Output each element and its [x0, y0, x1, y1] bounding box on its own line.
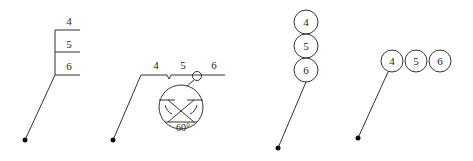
callout-variant-b: 60° 4 5 6 [111, 59, 226, 143]
label-6: 6 [437, 55, 443, 67]
leader-dot [356, 136, 361, 141]
callout-variant-a: 4 5 6 [23, 15, 81, 143]
angle-label: 60° [176, 122, 190, 133]
callout-diagram: 4 5 6 60° 4 5 6 4 5 6 [0, 0, 473, 161]
label-5: 5 [66, 38, 72, 50]
label-5: 5 [303, 40, 309, 52]
small-circle [193, 72, 202, 81]
leader-dot [276, 146, 281, 151]
label-4: 4 [389, 55, 395, 67]
callout-variant-c: 4 5 6 [276, 10, 319, 151]
label-5: 5 [180, 59, 186, 71]
label-6: 6 [303, 64, 309, 76]
label-5: 5 [413, 55, 419, 67]
leader-dot [111, 138, 116, 143]
label-4: 4 [303, 16, 309, 28]
label-6: 6 [211, 59, 217, 71]
label-4: 4 [66, 15, 72, 27]
label-6: 6 [66, 60, 72, 72]
label-4: 4 [153, 59, 159, 71]
callout-variant-d: 4 5 6 [356, 50, 452, 141]
leader-dot [23, 138, 28, 143]
